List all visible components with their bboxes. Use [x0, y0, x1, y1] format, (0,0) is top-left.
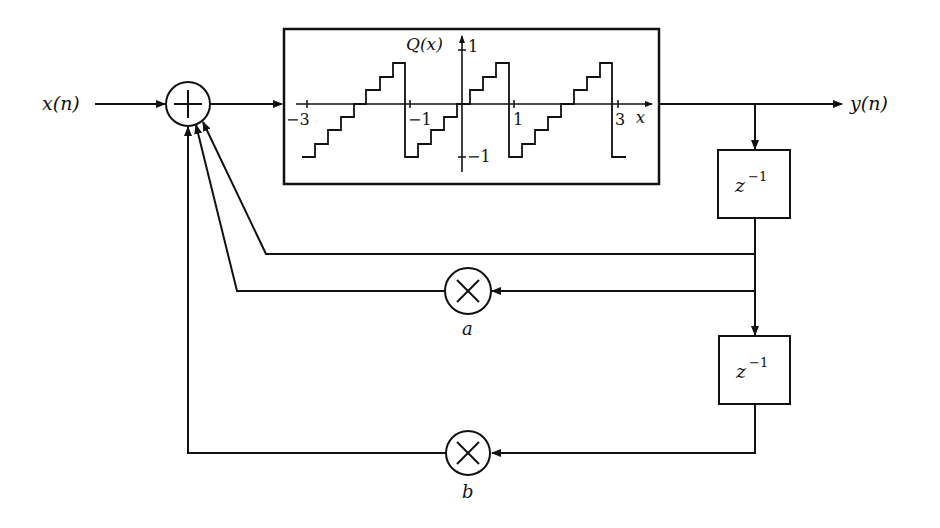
- quantizer-y-label: Q(x): [406, 34, 443, 54]
- delay-2-to-mult-b: [492, 404, 755, 453]
- y-tick-1: 1: [468, 37, 478, 56]
- x-tick-minus-1: −1: [408, 110, 432, 129]
- multiplier-a: [445, 268, 491, 314]
- summer-node: [166, 82, 210, 126]
- multiplier-b: [446, 431, 490, 475]
- mult-b-label: b: [462, 481, 474, 502]
- delay-1-exponent: −1: [748, 169, 767, 184]
- quantizer-x-label: x: [636, 108, 645, 127]
- input-label: x(n): [42, 92, 80, 114]
- x-tick-3: 3: [615, 110, 625, 129]
- mult-a-label: a: [462, 318, 473, 339]
- delay-1-base: z: [734, 174, 746, 196]
- quantizer-block: Q(x) 1 −1 −3 −1 1 3 x: [284, 29, 659, 184]
- block-diagram: x(n) Q(x) 1 −1 −3 −1 1 3 x y(n): [0, 0, 940, 528]
- delay-2-base: z: [735, 360, 747, 382]
- delay-block-2: z −1: [719, 336, 790, 404]
- y-tick-minus-1: −1: [467, 147, 491, 166]
- x-tick-1: 1: [513, 110, 523, 129]
- x-tick-minus-3: −3: [286, 110, 310, 129]
- delay-2-exponent: −1: [749, 355, 768, 370]
- delay-block-1: z −1: [718, 150, 790, 218]
- output-label: y(n): [849, 92, 888, 114]
